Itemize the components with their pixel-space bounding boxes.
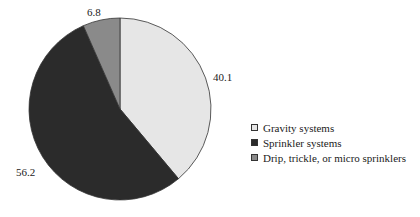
legend-swatch-gravity	[251, 124, 258, 131]
legend-label: Gravity systems	[263, 122, 334, 134]
pie-chart	[0, 0, 420, 217]
legend-item-drip: Drip, trickle, or micro sprinklers	[251, 150, 406, 165]
legend-swatch-drip	[251, 154, 258, 161]
label-drip: 6.8	[87, 6, 101, 18]
label-gravity: 40.1	[213, 71, 232, 83]
label-sprinkler: 56.2	[16, 166, 35, 178]
legend: Gravity systems Sprinkler systems Drip, …	[251, 120, 406, 165]
legend-swatch-sprinkler	[251, 139, 258, 146]
legend-item-sprinkler: Sprinkler systems	[251, 135, 406, 150]
legend-label: Sprinkler systems	[263, 137, 342, 149]
legend-label: Drip, trickle, or micro sprinklers	[263, 152, 406, 164]
legend-item-gravity: Gravity systems	[251, 120, 406, 135]
